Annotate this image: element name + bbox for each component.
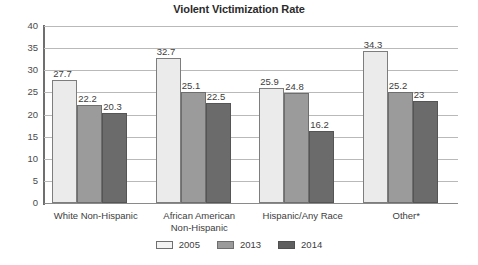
- x-axis-category-label-line: Other*: [355, 210, 459, 222]
- bar[interactable]: [206, 103, 231, 203]
- legend-label: 2014: [301, 240, 322, 250]
- x-axis-category-label-line: Hispanic/Any Race: [251, 210, 355, 222]
- bar-value-label: 23: [414, 90, 425, 100]
- x-axis-category-label: Other*: [355, 210, 459, 222]
- bar-group: 27.722.220.3: [44, 26, 148, 203]
- chart-container: Violent Victimization Rate 0510152025303…: [0, 0, 478, 265]
- bar-group: 25.924.816.2: [251, 26, 355, 203]
- bar[interactable]: [156, 58, 181, 203]
- y-axis-tick-label: 20: [4, 110, 38, 119]
- bar-value-label: 20.3: [103, 102, 122, 112]
- bar-value-label: 25.9: [260, 77, 279, 87]
- bar[interactable]: [309, 131, 334, 203]
- bar[interactable]: [259, 88, 284, 203]
- y-axis-tick-label: 5: [4, 176, 38, 185]
- bar-value-label: 27.7: [53, 69, 72, 79]
- x-axis-category-label-line: African American: [148, 210, 252, 222]
- bar[interactable]: [52, 80, 77, 203]
- y-axis-tick-label: 25: [4, 87, 38, 96]
- bar-value-label: 22.5: [207, 92, 226, 102]
- legend-swatch-icon: [278, 241, 295, 249]
- bar-value-label: 16.2: [310, 120, 329, 130]
- x-axis-category-label: African AmericanNon-Hispanic: [148, 210, 252, 233]
- bar-value-label: 25.2: [389, 81, 408, 91]
- y-axis-tick-label: 15: [4, 132, 38, 141]
- x-axis-category-label: White Non-Hispanic: [44, 210, 148, 222]
- bar-group: 32.725.122.5: [148, 26, 252, 203]
- bar[interactable]: [363, 51, 388, 203]
- legend-label: 2013: [240, 240, 261, 250]
- gridline: [44, 203, 458, 204]
- bar[interactable]: [102, 113, 127, 203]
- legend-item[interactable]: 2005: [156, 240, 200, 250]
- legend-swatch-icon: [217, 241, 234, 249]
- bar-value-label: 25.1: [182, 81, 201, 91]
- y-axis-tick-label: 35: [4, 43, 38, 52]
- bar-value-label: 32.7: [157, 47, 176, 57]
- bar[interactable]: [181, 92, 206, 203]
- y-axis-tick-label: 10: [4, 154, 38, 163]
- legend-item[interactable]: 2013: [217, 240, 261, 250]
- bar[interactable]: [388, 92, 413, 204]
- y-axis-tick-label: 30: [4, 65, 38, 74]
- bar-value-label: 34.3: [364, 40, 383, 50]
- y-axis-tick-label: 0: [4, 198, 38, 207]
- bar[interactable]: [413, 101, 438, 203]
- bar-value-label: 24.8: [285, 82, 304, 92]
- plot-area: 27.722.220.332.725.122.525.924.816.234.3…: [44, 26, 458, 203]
- bar[interactable]: [284, 93, 309, 203]
- y-axis-tick-labels: 0510152025303540: [0, 0, 38, 265]
- x-axis-category-label-line: White Non-Hispanic: [44, 210, 148, 222]
- chart-legend: 200520132014: [0, 240, 478, 250]
- legend-label: 2005: [179, 240, 200, 250]
- chart-title: Violent Victimization Rate: [0, 3, 478, 15]
- legend-item[interactable]: 2014: [278, 240, 322, 250]
- y-axis-tick-label: 40: [4, 21, 38, 30]
- bar-value-label: 22.2: [78, 94, 97, 104]
- legend-swatch-icon: [156, 241, 173, 249]
- x-axis-category-label-line: Non-Hispanic: [148, 222, 252, 234]
- x-axis-category-label: Hispanic/Any Race: [251, 210, 355, 222]
- bar-group: 34.325.223: [355, 26, 459, 203]
- bar[interactable]: [77, 105, 102, 203]
